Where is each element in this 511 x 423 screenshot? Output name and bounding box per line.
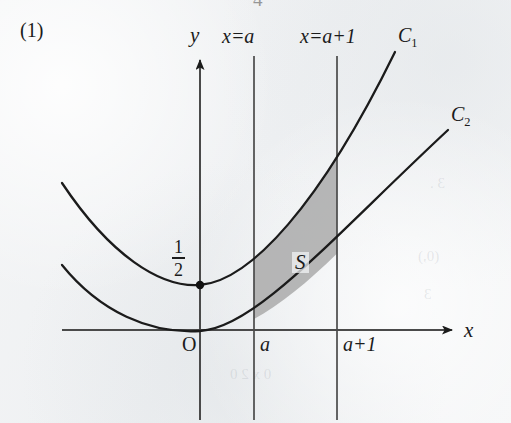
fraction-bar xyxy=(172,257,185,259)
y-axis-label: y xyxy=(190,25,199,46)
x-tick-label-a-plus-1: a+1 xyxy=(343,334,377,354)
curve-c2-letter: C xyxy=(451,103,464,125)
fraction-numerator: 1 xyxy=(172,238,185,257)
curve-c1-label: C1 xyxy=(398,25,418,49)
region-s-shading xyxy=(62,52,448,335)
curve-c2-subscript: 2 xyxy=(464,115,470,129)
item-number-label: (1) xyxy=(20,20,43,40)
origin-label: O xyxy=(182,334,196,354)
plot-canvas xyxy=(0,0,511,423)
point-marker-y-intercept xyxy=(196,281,204,289)
curve-c1-subscript: 1 xyxy=(411,36,417,50)
math-figure: 3 . (0,) 3 0 x 2 0 4 xyxy=(0,0,511,423)
fraction-denominator: 2 xyxy=(172,260,185,279)
region-s-label: S xyxy=(292,252,309,273)
vertical-line-a-label: x=a xyxy=(222,26,254,46)
x-tick-label-a: a xyxy=(260,334,270,354)
vertical-line-a-plus-1-label: x=a+1 xyxy=(300,26,356,46)
curve-c1 xyxy=(62,52,395,285)
curve-c2-label: C2 xyxy=(451,104,471,128)
curve-c1-letter: C xyxy=(398,24,411,46)
y-intercept-fraction-label: 1 2 xyxy=(172,238,185,279)
x-axis-label: x xyxy=(464,320,473,341)
